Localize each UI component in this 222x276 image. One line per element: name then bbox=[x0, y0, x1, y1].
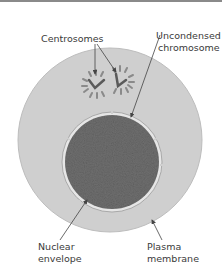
label-nuclear-envelope-line2: envelope bbox=[38, 253, 82, 264]
label-uncondensed-chromosome-line2: chromosome bbox=[158, 42, 220, 53]
label-centrosomes: Centrosomes bbox=[41, 33, 104, 44]
label-nuclear-envelope-line1: Nuclear bbox=[38, 241, 75, 252]
label-uncondensed-chromosome-line1: Uncondensed bbox=[156, 30, 221, 41]
label-plasma-membrane-line1: Plasma bbox=[147, 241, 181, 252]
label-plasma-membrane-line2: membrane bbox=[147, 253, 199, 264]
